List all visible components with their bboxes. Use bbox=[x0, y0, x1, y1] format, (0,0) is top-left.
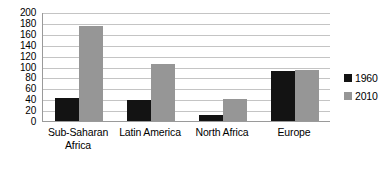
bar bbox=[55, 98, 79, 121]
x-axis-category-label: North Africa bbox=[186, 126, 258, 139]
x-axis-category-label-line: Latin America bbox=[114, 126, 186, 139]
x-axis-category-label: Latin America bbox=[114, 126, 186, 139]
legend: 19602010 bbox=[344, 69, 378, 105]
x-axis-category-label-line: Africa bbox=[42, 139, 114, 152]
y-axis-tick-label: 20 bbox=[0, 106, 36, 116]
bar bbox=[127, 100, 151, 121]
y-axis-tick-label: 40 bbox=[0, 95, 36, 105]
y-axis-tick-label: 0 bbox=[0, 117, 36, 127]
legend-swatch-icon bbox=[344, 74, 352, 82]
bar bbox=[79, 26, 103, 121]
x-axis-category-label-line: Sub-Saharan bbox=[42, 126, 114, 139]
legend-item[interactable]: 1960 bbox=[344, 69, 378, 87]
y-axis-tick-label: 60 bbox=[0, 84, 36, 94]
bar-group bbox=[55, 12, 103, 121]
plot-area bbox=[42, 13, 330, 122]
bar bbox=[223, 99, 247, 121]
y-axis-tick-label: 80 bbox=[0, 73, 36, 83]
y-axis-tick-label: 120 bbox=[0, 52, 36, 62]
x-axis-category-label: Europe bbox=[258, 126, 330, 139]
bar-group bbox=[127, 12, 175, 121]
legend-item[interactable]: 2010 bbox=[344, 87, 378, 105]
y-axis-tick-label: 200 bbox=[0, 8, 36, 18]
bar-group bbox=[199, 12, 247, 121]
legend-label: 1960 bbox=[355, 73, 378, 84]
bar-chart: 200180160140120100806040200 Sub-SaharanA… bbox=[0, 0, 389, 180]
bar bbox=[271, 71, 295, 121]
x-axis-category-label-line: Europe bbox=[258, 126, 330, 139]
x-axis-category-label: Sub-SaharanAfrica bbox=[42, 126, 114, 152]
y-axis-tick-label: 140 bbox=[0, 41, 36, 51]
bar bbox=[295, 70, 319, 121]
y-axis-tick-label: 180 bbox=[0, 19, 36, 29]
legend-swatch-icon bbox=[344, 92, 352, 100]
legend-label: 2010 bbox=[355, 91, 378, 102]
y-axis-tick-label: 100 bbox=[0, 63, 36, 73]
bar bbox=[199, 115, 223, 121]
bar bbox=[151, 64, 175, 121]
x-axis-category-label-line: North Africa bbox=[186, 126, 258, 139]
bar-group bbox=[271, 12, 319, 121]
y-axis-tick-label: 160 bbox=[0, 30, 36, 40]
